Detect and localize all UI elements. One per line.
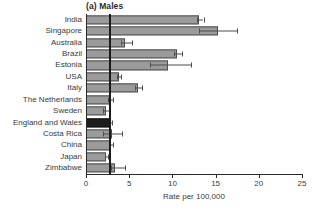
error-bar-line [150, 65, 191, 66]
error-bar-line [121, 42, 131, 43]
bar [86, 49, 177, 58]
y-axis-line [86, 14, 87, 174]
error-bar-line [197, 19, 204, 20]
error-bar-cap-low [174, 51, 175, 56]
bar [86, 72, 119, 81]
error-bar-cap-high [112, 120, 113, 125]
error-bar-cap-low [105, 154, 106, 159]
category-label: Sweden [53, 107, 82, 115]
bar-row: Costa Rica [0, 128, 321, 139]
bar-row: India [0, 14, 321, 25]
x-tick [86, 174, 87, 178]
bar-row: Brazil [0, 48, 321, 59]
error-bar-cap-high [125, 166, 126, 171]
error-bar-cap-high [191, 63, 192, 68]
x-tick-label: 20 [254, 180, 263, 188]
error-bar-cap-high [113, 143, 114, 148]
error-bar-cap-high [182, 51, 183, 56]
plot-area: IndiaSingaporeAustraliaBrazilEstoniaUSAI… [0, 14, 321, 174]
x-tick [302, 174, 303, 178]
category-label: Italy [67, 84, 82, 92]
error-bar-cap-low [135, 86, 136, 91]
error-bar-cap-low [111, 166, 112, 171]
category-label: India [65, 16, 82, 24]
bar [86, 84, 138, 93]
category-label: Estonia [55, 61, 82, 69]
bar-row: Estonia [0, 60, 321, 71]
error-bar-line [103, 133, 122, 134]
x-tick [129, 174, 130, 178]
category-label: Zimbabwe [45, 164, 82, 172]
error-bar-line [135, 88, 142, 89]
x-tick [172, 174, 173, 178]
error-bar-cap-low [150, 63, 151, 68]
bar-row: Japan [0, 151, 321, 162]
error-bar-cap-high [113, 97, 114, 102]
error-bar-cap-low [199, 29, 200, 34]
error-bar-cap-low [103, 131, 104, 136]
x-tick [259, 174, 260, 178]
x-tick-label: 25 [298, 180, 307, 188]
error-bar-cap-low [121, 40, 122, 45]
error-bar-line [174, 53, 182, 54]
category-label: Japan [60, 153, 82, 161]
reference-line [109, 14, 111, 174]
bar-row: Singapore [0, 25, 321, 36]
error-bar-cap-high [132, 40, 133, 45]
x-tick-label: 5 [127, 180, 131, 188]
x-tick [216, 174, 217, 178]
error-bar-cap-low [197, 17, 198, 22]
bar [86, 38, 125, 47]
x-tick-label: 15 [211, 180, 220, 188]
bar [86, 141, 111, 150]
error-bar-cap-high [142, 86, 143, 91]
x-axis-label: Rate per 100,000 [86, 193, 302, 201]
bar-row: Sweden [0, 105, 321, 116]
error-bar-line [199, 31, 237, 32]
x-tick-label: 10 [168, 180, 177, 188]
error-bar-cap-high [122, 131, 123, 136]
error-bar-line [111, 168, 125, 169]
error-bar-cap-high [121, 74, 122, 79]
bar-row: Zimbabwe [0, 163, 321, 174]
bar [86, 152, 106, 161]
category-label: England and Wales [13, 119, 82, 127]
bar-row: England and Wales [0, 117, 321, 128]
bar [86, 95, 110, 104]
category-label: The Netherlands [23, 96, 82, 104]
chart-title: (a) Males [86, 1, 123, 11]
category-label: Costa Rica [43, 130, 82, 138]
bar [86, 118, 110, 127]
x-axis-line [86, 174, 302, 175]
bar-row: USA [0, 71, 321, 82]
category-label: China [61, 141, 82, 149]
chart-figure: (a) Males IndiaSingaporeAustraliaBrazilE… [0, 0, 321, 211]
bar-row: Australia [0, 37, 321, 48]
error-bar-cap-low [117, 74, 118, 79]
category-label: USA [66, 73, 82, 81]
bar-row: The Netherlands [0, 94, 321, 105]
bar [86, 15, 199, 24]
bar-row: China [0, 140, 321, 151]
category-label: Singapore [46, 27, 82, 35]
x-tick-label: 0 [84, 180, 88, 188]
error-bar-cap-high [204, 17, 205, 22]
category-label: Brazil [62, 50, 82, 58]
category-label: Australia [51, 39, 82, 47]
error-bar-cap-high [237, 29, 238, 34]
error-bar-cap-low [103, 109, 104, 114]
bar-row: Italy [0, 83, 321, 94]
